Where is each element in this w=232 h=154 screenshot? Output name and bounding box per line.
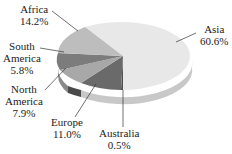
label-north-america: North America 7.9% [5,83,43,119]
label-south-america: South America 5.8% [3,40,41,76]
label-australia-name: Australia [99,127,139,139]
label-north-america-pct: 7.9% [5,107,43,119]
label-asia-name: Asia [200,23,228,35]
label-europe-pct: 11.0% [51,128,83,140]
label-africa-name: Africa [20,3,48,15]
label-north-america-line1: North [5,83,43,95]
label-australia-pct: 0.5% [99,139,139,151]
label-europe-name: Europe [51,116,83,128]
label-europe: Europe 11.0% [51,116,83,140]
label-south-america-pct: 5.8% [3,64,41,76]
pie-side-europe [68,86,81,97]
label-south-america-line2: America [3,52,41,64]
label-asia-pct: 60.6% [200,35,228,47]
label-australia: Australia 0.5% [99,127,139,151]
label-north-america-line2: America [5,95,43,107]
label-africa: Africa 14.2% [20,3,48,27]
label-africa-pct: 14.2% [20,15,48,27]
label-asia: Asia 60.6% [200,23,228,47]
label-south-america-line1: South [3,40,41,52]
